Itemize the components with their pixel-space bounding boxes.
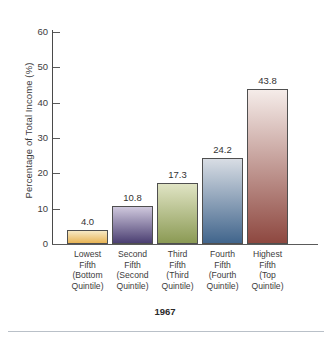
y-axis-tick-60 — [53, 32, 60, 33]
y-axis-tick-label-50: 50 — [26, 62, 48, 72]
bar-value-label-2: 10.8 — [105, 192, 161, 203]
x-axis-label-line: (Top — [239, 270, 297, 281]
bar-value-label-5: 43.8 — [240, 75, 296, 86]
y-axis-tick-20 — [53, 173, 60, 174]
y-axis-tick-label-10: 10 — [26, 204, 48, 214]
y-axis-tick-label-60: 60 — [26, 27, 48, 37]
y-axis-title: Percentage of Total Income (%) — [23, 31, 34, 231]
bar-2 — [112, 206, 153, 244]
y-axis-tick-30 — [53, 138, 60, 139]
bar-1 — [67, 230, 108, 244]
bar-3 — [157, 183, 198, 244]
x-axis-label-5: HighestFifth(TopQuintile) — [239, 249, 297, 291]
bar-value-label-3: 17.3 — [150, 169, 206, 180]
bar-value-label-1: 4.0 — [60, 216, 116, 227]
x-axis-label-line: Highest — [239, 249, 297, 260]
y-axis-tick-50 — [53, 67, 60, 68]
x-axis-label-line: Fifth — [239, 260, 297, 271]
bar-4 — [202, 158, 243, 244]
y-axis-tick-10 — [53, 209, 60, 210]
x-axis-label-line: Quintile) — [239, 281, 297, 292]
y-axis-tick-label-30: 30 — [26, 133, 48, 143]
y-axis-tick-label-40: 40 — [26, 98, 48, 108]
y-axis-tick-label-20: 20 — [26, 168, 48, 178]
y-axis-tick-40 — [53, 103, 60, 104]
y-axis-tick-0 — [53, 244, 60, 245]
y-axis-tick-label-0: 0 — [26, 239, 48, 249]
bottom-divider — [8, 331, 324, 332]
bar-5 — [247, 89, 288, 244]
chart-caption: 1967 — [0, 306, 330, 317]
bar-value-label-4: 24.2 — [195, 144, 251, 155]
chart-figure: Percentage of Total Income (%) 010203040… — [0, 0, 330, 340]
x-axis-line — [52, 244, 318, 245]
